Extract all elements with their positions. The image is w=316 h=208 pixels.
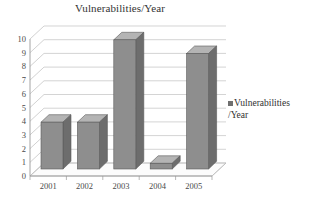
legend-swatch-icon	[228, 101, 233, 106]
y-tick-4: 4	[22, 116, 27, 126]
y-tick-8: 8	[22, 61, 26, 71]
y-axis-tick-labels: 0 1 2 3 4 5 6 7 8 9 10	[18, 34, 27, 181]
x-tick-2005: 2005	[185, 181, 202, 191]
x-tick-2001: 2001	[40, 181, 57, 191]
x-tick-2002: 2002	[76, 181, 93, 191]
legend-item-label-line2: /Year	[228, 110, 248, 120]
bar-2001	[41, 115, 71, 169]
bar-2005-front	[187, 54, 209, 170]
bar-2002-front	[77, 122, 99, 169]
bar-2001-side	[63, 115, 71, 169]
y-tick-0: 0	[22, 171, 26, 181]
legend-item: Vulnerabilities	[228, 98, 314, 110]
bar-2002-side	[99, 115, 107, 169]
bar-2005	[187, 46, 217, 169]
y-tick-5: 5	[22, 103, 26, 113]
bar-2002	[77, 115, 107, 169]
y-tick-9: 9	[22, 48, 26, 58]
bar-2003-front	[114, 40, 136, 169]
bar-2003-side	[136, 32, 144, 169]
x-axis-tick-labels: 2001 2002 2003 2004 2005	[40, 181, 203, 191]
legend-item-label-line1: Vulnerabilities	[234, 98, 290, 108]
y-tick-3: 3	[22, 130, 26, 140]
x-axis-ticks	[30, 176, 212, 180]
bar-2005-side	[209, 46, 217, 169]
bar-2004-front	[150, 163, 172, 169]
bar-2003	[114, 32, 144, 169]
y-tick-10: 10	[18, 34, 27, 44]
y-tick-7: 7	[22, 75, 26, 85]
x-tick-2004: 2004	[149, 181, 167, 191]
y-tick-1: 1	[22, 157, 26, 167]
y-tick-2: 2	[22, 144, 26, 154]
bar-2001-front	[41, 122, 63, 169]
y-tick-6: 6	[22, 89, 26, 99]
chart-legend: Vulnerabilities /Year	[228, 98, 314, 121]
chart-container: Vulnerabilities/Year	[0, 0, 316, 208]
x-tick-2003: 2003	[113, 181, 130, 191]
legend-item-label-line2-row: /Year	[228, 110, 314, 122]
